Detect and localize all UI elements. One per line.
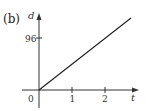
y-axis-label: d [28,10,34,21]
origin-label: 0 [28,94,34,104]
data-line [39,18,131,90]
x-tick-label-1: 1 [70,94,76,104]
x-axis-label: t [131,92,136,103]
y-tick-label-96: 96 [25,34,37,44]
y-axis-arrow-icon [37,13,42,20]
chart: d 96 0 1 2 t [0,0,146,111]
x-tick-label-2: 2 [102,94,108,104]
